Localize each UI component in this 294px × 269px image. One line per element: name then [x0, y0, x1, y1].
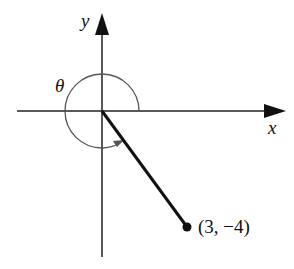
x-axis-label: x: [268, 118, 276, 137]
angle-label: θ: [55, 76, 64, 95]
y-axis-arrowhead-icon: [95, 13, 109, 35]
point-label: (3, −4): [198, 217, 250, 236]
y-axis-label: y: [81, 11, 89, 30]
point-marker: [183, 223, 192, 232]
x-axis-arrowhead-icon: [264, 104, 286, 118]
terminal-side-segment: [102, 111, 187, 227]
